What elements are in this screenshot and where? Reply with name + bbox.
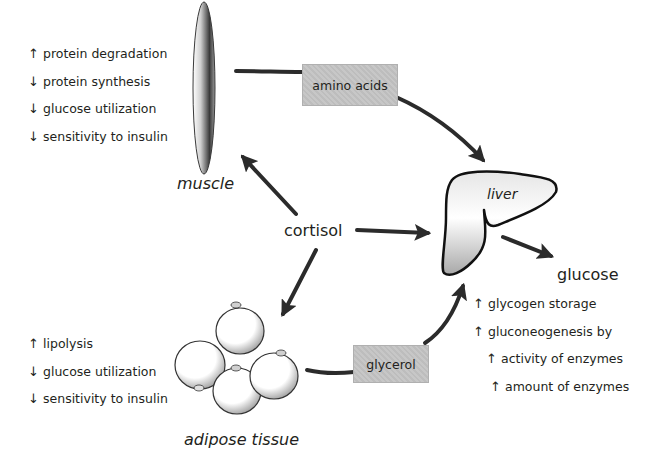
cortisol-to-adipose-arrow [283,250,316,314]
muscle-effect-item: ↑protein degradation [28,46,167,62]
cortisol-metabolism-diagram: amino acids glycerol cortisol muscle liv… [0,0,654,461]
arrow-up-icon: ↑ [28,336,38,352]
liver-to-glucose-arrow [503,237,551,256]
liver-effect-item: ↑amount of enzymes [490,379,629,395]
cortisol-to-liver-arrow [357,230,428,233]
liver-label: liver [487,186,517,202]
adipose-effect-item: ↑lipolysis [28,336,93,352]
liver-effect-item: ↑activity of enzymes [486,351,623,367]
glycerol-to-liver-arrow [425,286,463,343]
muscle-to-amino-acids-line [236,71,302,72]
adipose-effect-item: ↓sensitivity to insulin [28,391,168,407]
arrow-down-icon: ↓ [28,74,38,90]
arrow-down-icon: ↓ [28,101,38,117]
arrow-up-icon: ↑ [486,351,496,367]
adipose-to-glycerol-line [307,370,354,373]
arrow-down-icon: ↓ [28,129,38,145]
amino-acids-box: amino acids [302,64,398,106]
amino-acids-label: amino acids [312,78,387,93]
cortisol-label: cortisol [284,221,342,241]
liver-effect-item: ↑gluconeogenesis by [473,324,612,340]
adipose-tissue-icon [175,302,298,414]
arrow-up-icon: ↑ [473,324,483,340]
glucose-label: glucose [557,265,619,285]
adipose-effect-item: ↓glucose utilization [28,364,156,380]
amino-acids-to-liver-arrow [396,97,483,160]
liver-effect-item: ↑glycogen storage [473,296,596,312]
cortisol-to-muscle-arrow [243,157,296,214]
glycerol-label: glycerol [366,357,415,372]
arrow-down-icon: ↓ [28,391,38,407]
arrow-up-icon: ↑ [473,296,483,312]
muscle-icon [193,2,215,174]
arrow-down-icon: ↓ [28,364,38,380]
glycerol-box: glycerol [353,345,429,383]
muscle-effect-item: ↓glucose utilization [28,101,156,117]
arrow-up-icon: ↑ [28,46,38,62]
arrow-up-icon: ↑ [490,379,500,395]
muscle-label: muscle [177,174,234,194]
muscle-effect-item: ↓sensitivity to insulin [28,129,168,145]
adipose-tissue-label: adipose tissue [184,430,299,450]
muscle-effect-item: ↓protein synthesis [28,74,150,90]
